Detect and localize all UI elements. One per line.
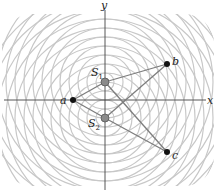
source-s1: S1 bbox=[91, 66, 109, 86]
x-axis-label: x bbox=[207, 94, 214, 107]
point-c-label: c bbox=[172, 149, 178, 162]
y-axis-label: y bbox=[100, 0, 108, 12]
point-b-label: b bbox=[172, 55, 179, 68]
point-a-dot bbox=[70, 97, 76, 103]
source-s2-dot bbox=[101, 114, 109, 122]
point-b-dot bbox=[164, 61, 170, 67]
point-c-dot bbox=[164, 149, 170, 155]
point-a: a bbox=[60, 94, 76, 107]
wavefronts bbox=[0, 0, 217, 192]
source-s2-label: S2 bbox=[88, 117, 100, 132]
point-a-label: a bbox=[60, 94, 67, 107]
interference-diagram: x y S1 S2 a b c bbox=[0, 0, 217, 192]
point-b: b bbox=[164, 55, 179, 68]
source-s2: S2 bbox=[88, 114, 109, 132]
source-s1-label: S1 bbox=[91, 66, 103, 81]
